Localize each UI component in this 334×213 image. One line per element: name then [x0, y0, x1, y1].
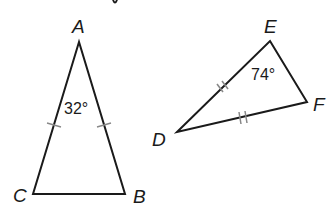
double-tick-df-1 — [239, 112, 241, 124]
angle-a-label: 32° — [64, 100, 88, 117]
vertex-label-a: A — [71, 16, 85, 37]
triangle-abc-outline — [33, 42, 125, 194]
triangle-def-outline — [177, 41, 307, 132]
cropped-text-fragment — [113, 0, 117, 3]
vertex-label-f: F — [313, 94, 326, 115]
double-tick-df-2 — [245, 111, 247, 123]
vertex-label-e: E — [264, 16, 277, 37]
triangle-abc: 32° A C B — [13, 16, 146, 207]
angle-e-label: 74° — [251, 66, 275, 83]
vertex-label-d: D — [152, 129, 166, 150]
vertex-label-c: C — [13, 185, 27, 206]
geometry-figure: 32° A C B 74° E F D — [0, 0, 334, 213]
vertex-label-b: B — [133, 186, 146, 207]
triangle-def: 74° E F D — [152, 16, 326, 150]
